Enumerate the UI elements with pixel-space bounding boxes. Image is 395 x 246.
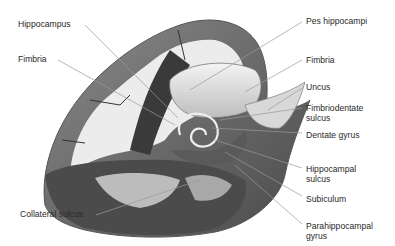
label-hippocampus: Hippocampus: [18, 20, 71, 30]
label-fimbria-right: Fimbria: [306, 56, 335, 66]
label-fimbria-left: Fimbria: [18, 55, 47, 65]
label-dentate-gyrus: Dentate gyrus: [306, 131, 360, 141]
hippocampus-diagram: Hippocampus Fimbria Collateral sulcus Pe…: [0, 0, 395, 246]
label-collateral-sulcus: Collateral sulcus: [20, 210, 83, 220]
label-subiculum: Subiculum: [306, 195, 346, 205]
label-hippocampal-sulcus: Hippocampal sulcus: [306, 165, 356, 184]
label-parahippocampal-gyrus: Parahippocampal gyrus: [306, 222, 373, 241]
label-uncus: Uncus: [306, 83, 330, 93]
label-fimbriodentate-sulcus: Fimbriodentate sulcus: [306, 104, 363, 123]
label-pes-hippocampi: Pes hippocampi: [306, 17, 367, 27]
